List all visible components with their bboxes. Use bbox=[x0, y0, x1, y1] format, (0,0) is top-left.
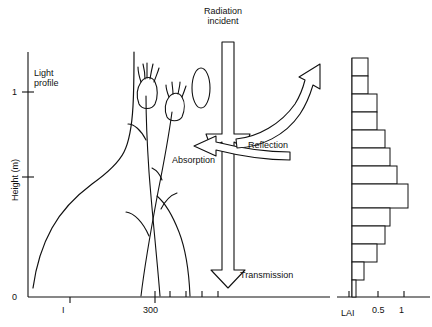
light-profile-label-line2: profile bbox=[34, 78, 59, 88]
left-axes bbox=[22, 52, 330, 297]
radiation-interception-diagram bbox=[0, 0, 432, 327]
lai-bar bbox=[352, 112, 377, 130]
height-axis-label: Height (m) bbox=[10, 150, 20, 210]
lai-bar bbox=[352, 262, 364, 280]
lai-bar bbox=[352, 280, 356, 297]
y-tick-label-1: 1 bbox=[12, 87, 17, 97]
plant-stem-3 bbox=[157, 196, 190, 296]
plant-seedhead-2 bbox=[165, 82, 186, 121]
x-tick-label-i: I bbox=[62, 305, 65, 315]
plant-stem-1 bbox=[146, 96, 160, 296]
lai-bar bbox=[352, 76, 368, 94]
plant-leaf-blade-3 bbox=[161, 193, 177, 209]
reflection-label: Reflection bbox=[248, 140, 288, 150]
lai-bar bbox=[352, 148, 390, 166]
plant-leaf-ellipse bbox=[192, 68, 210, 108]
radiation-incident-label: Radiation incident bbox=[188, 6, 258, 26]
lai-bar bbox=[352, 130, 385, 148]
radiation-incident-line2: incident bbox=[188, 16, 258, 26]
plant-canopy-drawing bbox=[126, 63, 210, 296]
lai-axis-label: LAI bbox=[341, 308, 355, 318]
radiation-incident-line1: Radiation bbox=[188, 6, 258, 16]
lai-histogram-bars bbox=[352, 58, 408, 297]
plant-seedhead-1 bbox=[137, 63, 159, 109]
radiation-incident-arrow bbox=[206, 42, 250, 288]
y-tick-label-0: 0 bbox=[12, 292, 17, 302]
plant-leaf-blade-2 bbox=[126, 212, 149, 236]
lai-bar bbox=[352, 208, 390, 226]
light-profile-label: Light profile bbox=[34, 68, 59, 88]
lai-tick-label-1: 1 bbox=[399, 305, 404, 315]
transmission-label: Transmission bbox=[240, 270, 293, 280]
lai-bar bbox=[352, 226, 385, 244]
lai-bar bbox=[352, 94, 377, 112]
lai-bar bbox=[352, 184, 408, 208]
x-tick-label-300: 300 bbox=[143, 305, 158, 315]
absorption-label: Absorption bbox=[172, 155, 215, 165]
lai-bar bbox=[352, 244, 377, 262]
lai-tick-label-05: 0.5 bbox=[372, 305, 385, 315]
lai-bar bbox=[352, 58, 368, 76]
light-profile-label-line1: Light bbox=[34, 68, 59, 78]
lai-bar bbox=[352, 166, 397, 184]
